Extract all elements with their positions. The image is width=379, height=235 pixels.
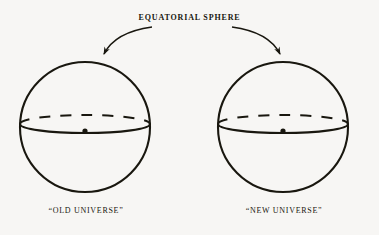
new-universe-outline: [218, 62, 348, 192]
arrow-to-new-universe: [232, 27, 280, 54]
new-universe-equator-back: [218, 115, 348, 124]
old-universe-sphere: [20, 62, 150, 192]
new-universe-label: “NEW UNIVERSE”: [198, 206, 370, 215]
diagram-canvas: [0, 0, 379, 235]
old-universe-center-dot: [82, 128, 87, 133]
new-universe-sphere: [218, 62, 348, 192]
arrow-to-old-universe: [104, 27, 152, 54]
new-universe-center-dot: [280, 128, 285, 133]
old-universe-label: “OLD UNIVERSE”: [0, 206, 172, 215]
figure-title: EQUATORIAL SPHERE: [0, 13, 379, 22]
equatorial-sphere-figure: EQUATORIAL SPHERE “OLD UNIVERSE” “NEW UN…: [0, 0, 379, 235]
old-universe-outline: [20, 62, 150, 192]
old-universe-equator-back: [20, 115, 150, 124]
